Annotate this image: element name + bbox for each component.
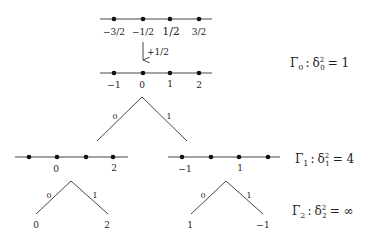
tick-label: 3/2 [192,27,206,37]
subscript: 1 [325,160,329,168]
point-dot [168,17,173,22]
point-dot [27,155,32,160]
tick-label: 1 [167,79,173,89]
tree-level0: 0 1 [97,97,187,141]
tick-label: 2 [196,80,202,90]
tick-label: −1/2 [132,27,154,37]
leaf-label: −1 [256,220,269,230]
level1-left-number-line: 0 2 [15,155,128,174]
tree-diagram: −3/2 −1/2 1/2 3/2 +1/2 −1 0 1 2 0 1 0 2 [0,0,369,241]
top-number-line: −3/2 −1/2 1/2 3/2 [100,17,212,38]
tree-edge-left [36,181,71,214]
tree-edge-right [71,181,108,214]
tick-label: −1 [178,164,191,174]
point-dot [168,71,173,76]
gamma-symbol: Γ [290,56,298,70]
subscript: 0 [298,63,303,72]
colon: : [310,152,314,166]
tick-label: 2 [111,163,117,173]
edge-label: 0 [46,191,51,200]
tree-level2-left: 0 1 0 2 [33,181,110,230]
leaf-label: 2 [104,220,110,230]
delta-symbol: δ [314,204,321,218]
gamma-symbol: Γ [292,204,300,218]
subscript: 0 [320,64,324,72]
point-dot [237,155,242,160]
edge-label: 1 [246,191,251,200]
gamma0-label: Γ0:δ20= 1 [290,56,349,72]
point-dot [112,17,117,22]
superscript: 2 [320,56,324,64]
subscript: 1 [303,159,308,168]
edge-label: 1 [166,112,171,121]
tree-edge-right [142,97,187,141]
point-dot [84,155,89,160]
edge-label: 1 [92,191,97,200]
point-dot [197,71,202,76]
svg-text:Γ1:δ21= 4: Γ1:δ21= 4 [295,152,355,168]
equation-rhs: = ∞ [330,204,354,218]
colon: : [307,204,311,218]
tick-label: 1/2 [162,25,180,38]
tree-edge-left [97,97,142,141]
svg-text:Γ0:δ20= 1: Γ0:δ20= 1 [290,56,349,72]
point-dot [111,155,116,160]
gamma1-label: Γ1:δ21= 4 [295,152,355,168]
point-dot [141,71,146,76]
point-dot [180,155,185,160]
tree-edge-left [191,181,226,214]
point-dot [266,155,271,160]
edge-label: 0 [200,191,205,200]
tick-label: 1 [237,163,243,173]
point-dot [197,17,202,22]
superscript: 2 [325,152,329,160]
edge-label: 0 [112,112,117,121]
subscript: 2 [300,211,305,220]
tick-label: 0 [53,164,59,174]
point-dot [112,71,117,76]
tick-label: −1 [107,80,120,90]
gamma-symbol: Γ [295,152,303,166]
tree-edge-right [226,181,263,214]
superscript: 2 [322,204,326,212]
level0-number-line: −1 0 1 2 [100,71,212,90]
diagram-svg: −3/2 −1/2 1/2 3/2 +1/2 −1 0 1 2 0 1 0 2 [0,0,369,241]
equation-rhs: = 4 [333,152,355,166]
delta-symbol: δ [312,56,319,70]
subscript: 2 [322,212,326,220]
gamma2-label: Γ2:δ22= ∞ [292,204,354,220]
equation-rhs: = 1 [328,56,350,70]
shift-arrow: +1/2 [143,42,169,60]
colon: : [305,56,309,70]
tick-label: 0 [139,80,145,90]
tick-label: −3/2 [103,27,125,37]
leaf-label: 0 [33,220,39,230]
tree-level2-right: 0 1 1 −1 [187,181,270,230]
delta-symbol: δ [317,152,324,166]
leaf-label: 1 [187,220,193,230]
level1-right-number-line: −1 1 [168,155,280,174]
svg-text:Γ2:δ22= ∞: Γ2:δ22= ∞ [292,204,354,220]
point-dot [141,17,146,22]
shift-label: +1/2 [147,47,169,57]
point-dot [209,155,214,160]
point-dot [55,155,60,160]
